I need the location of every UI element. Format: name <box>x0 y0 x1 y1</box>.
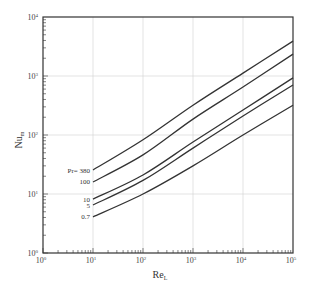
series-label: 100 <box>80 178 91 186</box>
series-label: 0.7 <box>81 213 90 221</box>
series-label: Pr= 380 <box>68 167 91 175</box>
y-tick-label: 103 <box>28 72 39 81</box>
x-tick-labels: 100101102103104105 <box>36 256 297 265</box>
x-tick-label: 103 <box>186 256 197 265</box>
y-axis-title: Num <box>13 131 25 148</box>
y-tick-labels: 100101102103104 <box>28 13 39 258</box>
series-label: 5 <box>87 202 91 210</box>
x-axis-title: ReL <box>153 269 168 281</box>
x-tick-label: 105 <box>286 256 297 265</box>
y-tick-label: 104 <box>28 13 39 22</box>
x-tick-label: 100 <box>36 256 47 265</box>
x-tick-label: 102 <box>136 256 147 265</box>
y-tick-label: 101 <box>28 190 39 199</box>
minor-ticks <box>43 20 291 253</box>
x-tick-label: 101 <box>86 256 97 265</box>
chart: Pr= 3801001050.7 100101102103104105 1001… <box>0 0 313 289</box>
x-tick-label: 104 <box>236 256 247 265</box>
y-tick-label: 102 <box>28 131 39 140</box>
